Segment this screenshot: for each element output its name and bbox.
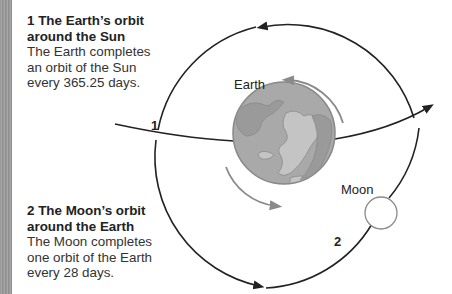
earth-globe-icon bbox=[233, 82, 335, 186]
moon-label: Moon bbox=[341, 182, 374, 197]
orbit-diagram: Earth Moon 1 2 bbox=[0, 0, 452, 294]
moon-orbit-marker: 2 bbox=[334, 234, 341, 249]
earth-label: Earth bbox=[234, 77, 265, 92]
earth-orbit-marker: 1 bbox=[151, 118, 158, 133]
moon-icon bbox=[365, 197, 397, 229]
